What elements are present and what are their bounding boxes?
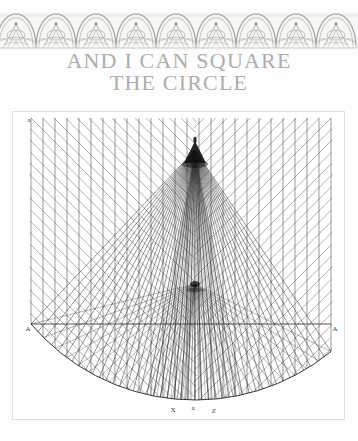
ornament-band — [0, 12, 358, 50]
title-line-1: AND I CAN SQUARE — [0, 50, 358, 72]
figure-label: Z — [212, 407, 216, 415]
figure-label: A — [25, 325, 30, 333]
construction-diagram: aAAXaZ — [13, 112, 344, 419]
geometric-figure: aAAXaZ — [12, 111, 345, 420]
figure-label: A — [332, 325, 337, 333]
page-title: AND I CAN SQUARE THE CIRCLE — [0, 50, 358, 95]
page-canvas: AND I CAN SQUARE THE CIRCLE aAAXaZ — [0, 0, 358, 441]
title-line-2: THE CIRCLE — [0, 72, 358, 94]
figure-label: X — [170, 406, 175, 414]
